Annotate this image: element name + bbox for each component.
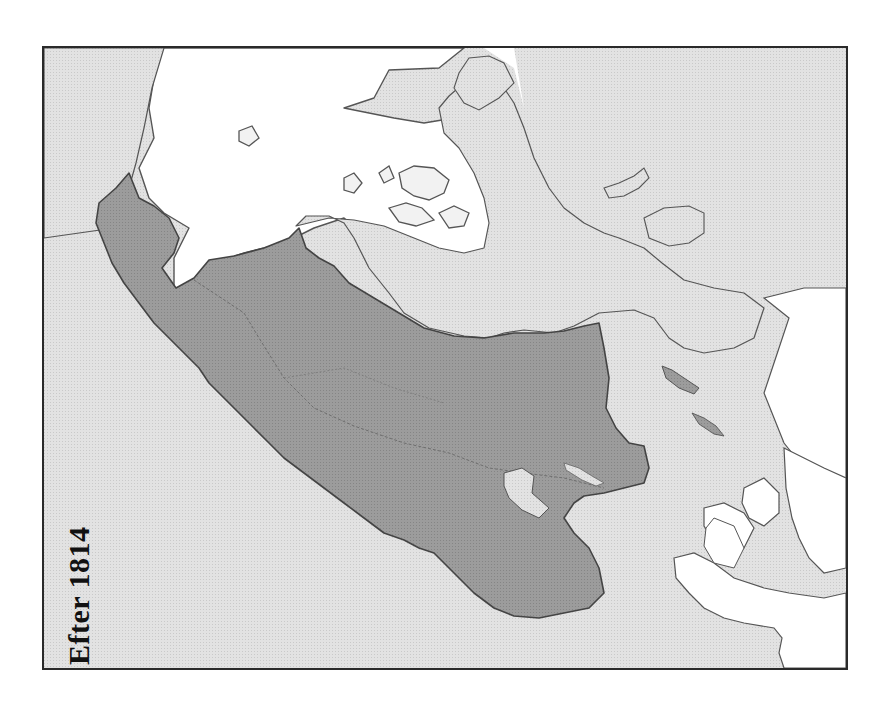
map-canvas (44, 48, 846, 668)
map-frame (42, 46, 848, 670)
map-title: Efter 1814 (62, 526, 96, 665)
